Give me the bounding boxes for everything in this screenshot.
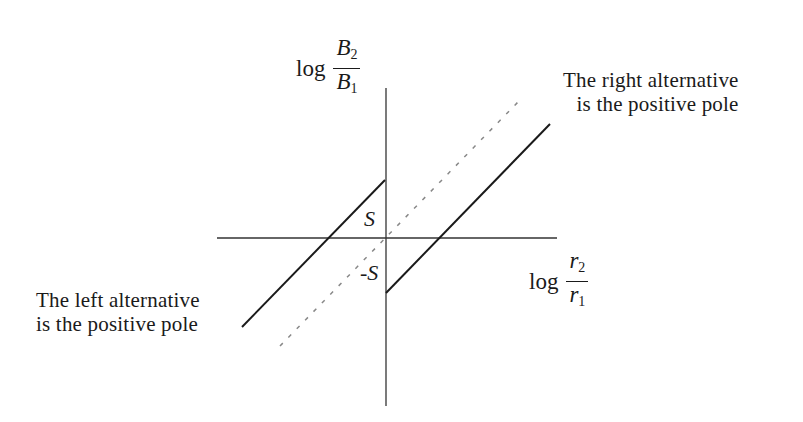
intercept-s-label: S [364, 206, 375, 232]
diagram-canvas [0, 0, 803, 422]
y-axis-fraction: B2 B1 [333, 36, 360, 101]
x-axis-log: log [529, 269, 558, 295]
y-axis-label: log B2 B1 [296, 36, 360, 101]
x-axis-label: log r2 r1 [529, 249, 588, 314]
left-alternative-line [242, 180, 385, 327]
y-axis-log: log [296, 56, 325, 82]
intercept-neg-s-label: -S [360, 260, 378, 286]
left-alternative-annotation: The left alternative is the positive pol… [36, 288, 200, 336]
right-alternative-line [386, 124, 550, 293]
x-axis-fraction: r2 r1 [566, 249, 588, 314]
diagonal-reference-line [280, 102, 518, 346]
right-alternative-annotation: The right alternative is the positive po… [563, 68, 739, 116]
